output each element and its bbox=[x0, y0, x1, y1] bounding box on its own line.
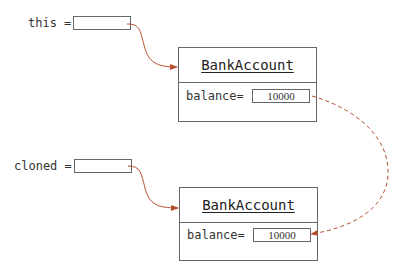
reference-arrows bbox=[0, 0, 397, 277]
balance-copy-dashed-arrow bbox=[311, 96, 388, 234]
cloned-reference-arrow bbox=[128, 166, 178, 208]
this-reference-arrow bbox=[127, 24, 177, 67]
